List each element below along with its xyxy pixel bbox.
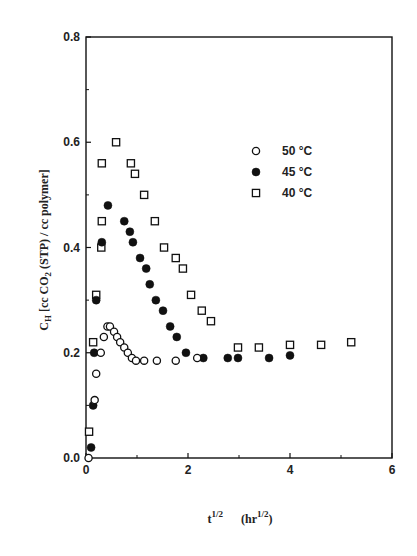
x-tick-label: 2 [185, 463, 192, 477]
open-circle-marker [172, 357, 179, 364]
filled-circle-marker [166, 322, 174, 330]
y-tick-label: 0.6 [63, 135, 80, 149]
filled-circle-marker [146, 280, 154, 288]
open-circle-marker [91, 397, 98, 404]
filled-circle-marker [224, 354, 232, 362]
series-open-square [85, 139, 354, 436]
x-tick-label: 6 [389, 463, 396, 477]
filled-circle-marker [92, 296, 100, 304]
legend: 50 °C45 °C40 °C [252, 144, 312, 200]
open-square-marker [141, 191, 148, 198]
open-square-marker [127, 160, 134, 167]
filled-circle-marker [152, 296, 160, 304]
y-tick-label: 0.8 [63, 30, 80, 44]
open-square-marker [348, 339, 355, 346]
chart: 0.00.20.40.60.8 0246 50 °C45 °C40 °C CH … [0, 0, 417, 556]
open-square-marker [286, 341, 293, 348]
open-square-marker [98, 218, 105, 225]
open-square-marker [172, 254, 179, 261]
open-circle-marker [194, 354, 201, 361]
filled-circle-marker [265, 354, 273, 362]
series-open-circle [85, 323, 201, 462]
x-tick-label: 4 [287, 463, 294, 477]
legend-label: 40 °C [282, 186, 312, 200]
legend-label: 50 °C [282, 144, 312, 158]
open-circle-marker [132, 357, 139, 364]
y-tick-label: 0.0 [63, 451, 80, 465]
open-square-marker [112, 139, 119, 146]
open-circle-marker [97, 349, 104, 356]
filled-circle-marker [136, 254, 144, 262]
open-square-marker [179, 265, 186, 272]
x-tick-label: 0 [83, 463, 90, 477]
open-square-marker [151, 218, 158, 225]
open-square-marker [255, 344, 262, 351]
open-square-marker [85, 428, 92, 435]
open-square-marker [187, 291, 194, 298]
open-square-marker [131, 170, 138, 177]
plot-border [86, 37, 392, 458]
open-square-marker [234, 344, 241, 351]
x-axis-title: t1/2(hr1/2) [207, 509, 272, 526]
filled-circle-marker [98, 238, 106, 246]
open-square-marker [252, 189, 259, 196]
open-circle-marker [153, 357, 160, 364]
open-circle-marker [100, 333, 107, 340]
open-square-marker [160, 244, 167, 251]
filled-circle-marker [173, 333, 181, 341]
filled-circle-marker [286, 351, 294, 359]
open-square-marker [207, 318, 214, 325]
filled-circle-marker [159, 307, 167, 315]
open-circle-marker [252, 147, 259, 154]
open-circle-marker [85, 454, 92, 461]
filled-circle-marker [252, 168, 260, 176]
y-tick-label: 0.2 [63, 346, 80, 360]
filled-circle-marker [129, 238, 137, 246]
filled-circle-marker [234, 354, 242, 362]
filled-circle-marker [104, 201, 112, 209]
open-square-marker [318, 341, 325, 348]
data-points [85, 139, 355, 462]
y-tick-label: 0.4 [63, 241, 80, 255]
open-square-marker [98, 160, 105, 167]
open-square-marker [198, 307, 205, 314]
filled-circle-marker [87, 443, 95, 451]
filled-circle-marker [120, 217, 128, 225]
legend-label: 45 °C [282, 165, 312, 179]
filled-circle-marker [142, 265, 150, 273]
filled-circle-marker [182, 349, 190, 357]
open-square-marker [90, 339, 97, 346]
open-circle-marker [141, 357, 148, 364]
x-axis-ticks: 0246 [83, 453, 396, 477]
y-axis-ticks: 0.00.20.40.60.8 [63, 30, 91, 465]
open-circle-marker [93, 370, 100, 377]
filled-circle-marker [126, 228, 134, 236]
plot-frame [86, 37, 392, 458]
y-axis-title: CH [cc CO2 (STP) / cc polymer] [37, 169, 53, 330]
series-filled-circle [87, 201, 294, 451]
